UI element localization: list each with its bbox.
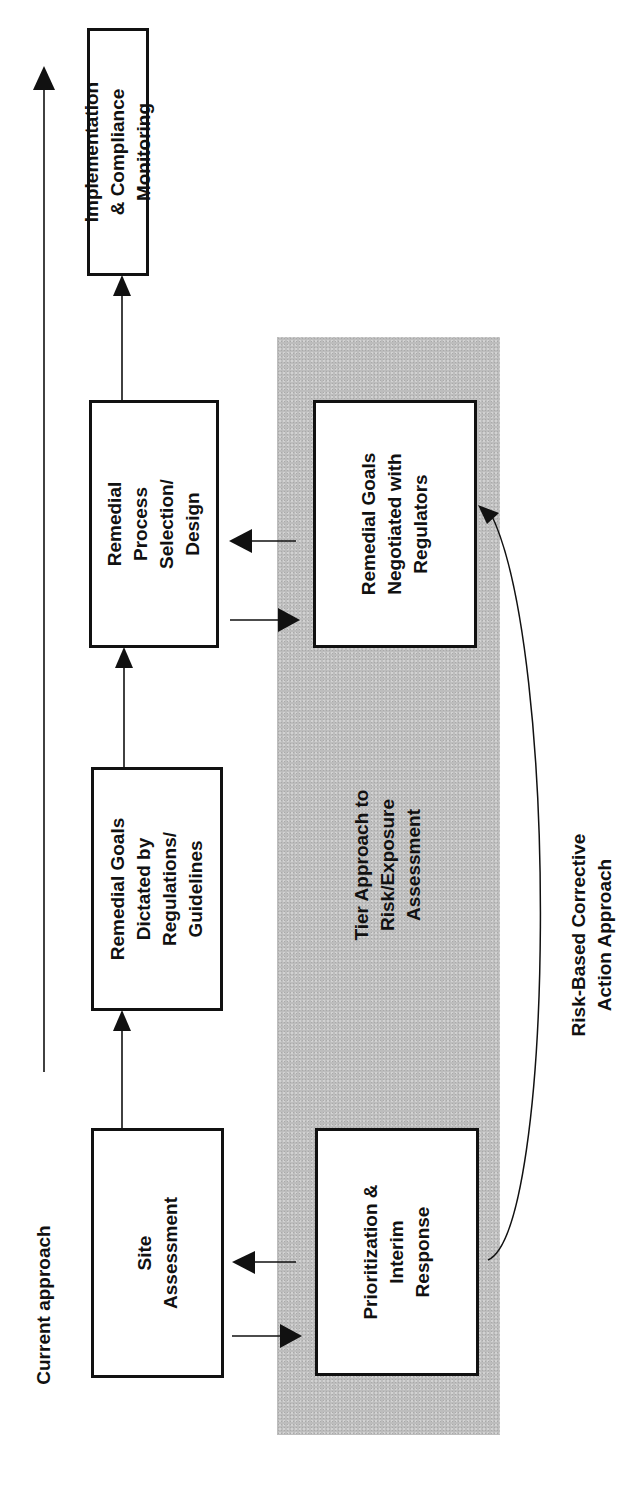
arrowhead-right-icon [278, 608, 300, 632]
curve-arrowhead-icon [478, 505, 499, 524]
arrowhead-up-icon [113, 275, 131, 296]
arrowhead-right-icon [280, 1324, 302, 1348]
arrowhead-up-icon [33, 66, 55, 90]
connector-arrows [0, 0, 643, 1495]
arrowhead-up-icon [115, 647, 133, 668]
arrowhead-left-icon [229, 529, 252, 553]
arrowhead-up-icon [113, 1010, 131, 1031]
arrowhead-left-icon [232, 1251, 255, 1274]
